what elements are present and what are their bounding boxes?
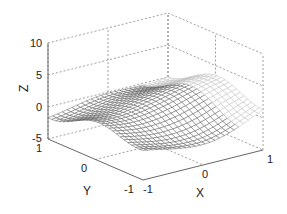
x-tick-neg1: -1: [143, 183, 153, 195]
surface-plot: 10 5 0 -5 Z 1 0 -1 Y -1 0 1 X: [0, 0, 287, 214]
z-axis-label: Z: [17, 85, 31, 92]
z-tick-5: 5: [36, 69, 42, 81]
z-tick-10: 10: [30, 37, 42, 49]
z-tick-0: 0: [36, 101, 42, 113]
surface-mesh: [48, 74, 263, 151]
x-tick-1: 1: [267, 153, 273, 165]
y-tick-0: 0: [81, 162, 87, 174]
y-tick-neg1: -1: [124, 183, 134, 195]
y-axis-label: Y: [83, 184, 91, 198]
x-tick-0: 0: [202, 168, 208, 180]
y-tick-1: 1: [36, 142, 42, 154]
x-axis-label: X: [196, 186, 204, 200]
